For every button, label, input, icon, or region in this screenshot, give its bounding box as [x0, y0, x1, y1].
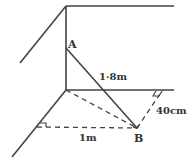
point-a-label: A	[67, 38, 77, 51]
ab-length-label: 1·8m	[99, 71, 127, 82]
top-left-edge-line	[20, 6, 66, 63]
right-angle-mark-back-wall	[153, 91, 162, 96]
segment-ab-line	[66, 48, 137, 128]
floor-left-edge-line	[12, 90, 66, 157]
corner-to-b-dashed-line	[66, 90, 137, 128]
b-to-other-wall-length-label: 1m	[79, 132, 97, 143]
diagram-canvas: A B 1·8m 40cm 1m	[0, 0, 193, 159]
b-to-left-wall-dashed-line	[37, 127, 137, 128]
b-to-wall-length-label: 40cm	[156, 105, 187, 116]
point-b-label: B	[134, 132, 143, 145]
